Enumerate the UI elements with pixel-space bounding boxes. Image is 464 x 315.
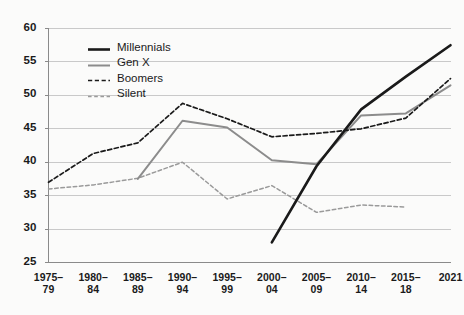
legend-label: Boomers [117, 72, 163, 84]
legend-label: Silent [117, 87, 146, 99]
y-axis-tick-label: 60 [11, 21, 37, 33]
chart-legend: MillennialsGen XBoomersSilent [88, 39, 171, 101]
legend-label: Gen X [117, 56, 150, 68]
chart-plot-area [0, 0, 464, 315]
series-line-silent [49, 162, 406, 212]
legend-item: Gen X [88, 55, 171, 71]
legend-label: Millennials [117, 41, 171, 53]
legend-item: Silent [88, 86, 171, 102]
line-chart: 2530354045505560 1975–791980–841985–8919… [0, 0, 464, 315]
series-line-gen-x [138, 85, 451, 179]
legend-item: Millennials [88, 39, 171, 55]
y-axis-tick-label: 35 [11, 188, 37, 200]
legend-line-swatch [88, 88, 110, 99]
y-axis-tick-label: 50 [11, 87, 37, 99]
series-line-millennials [272, 45, 451, 242]
y-axis-tick-label: 45 [11, 121, 37, 133]
y-axis-tick-label: 25 [11, 255, 37, 267]
legend-line-swatch [88, 41, 110, 52]
legend-line-swatch [88, 72, 110, 83]
x-axis-tick-label-line1: 2021 [425, 271, 464, 284]
y-axis-tick-label: 40 [11, 154, 37, 166]
y-axis-tick-label: 55 [11, 54, 37, 66]
legend-item: Boomers [88, 70, 171, 86]
y-axis-tick-label: 30 [11, 221, 37, 233]
legend-line-swatch [88, 57, 110, 68]
x-axis-tick-label: 2021 [425, 271, 464, 284]
x-axis-tick-label-line2: 18 [380, 283, 432, 296]
